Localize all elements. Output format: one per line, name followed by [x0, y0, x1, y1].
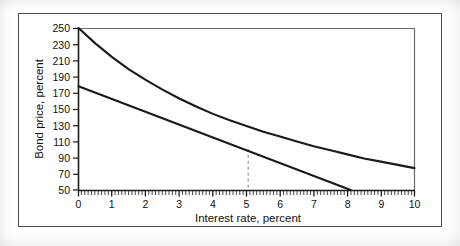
x-tick-labels: 0 1 2 3 4 5 6 7 8 9 10	[76, 198, 421, 210]
y-tick-label: 190	[52, 71, 70, 83]
x-tick-label: 10	[409, 198, 421, 210]
x-tick-label: 7	[311, 198, 317, 210]
x-tick-label: 4	[210, 198, 216, 210]
y-tick-label: 250	[52, 22, 70, 34]
y-tick-label: 50	[58, 184, 70, 196]
y-tick-label: 70	[58, 168, 70, 180]
y-tick-labels: 250 230 210 190 170 150 130 110 90 70 50	[52, 22, 70, 195]
x-tick-label: 0	[76, 198, 82, 210]
plot-area	[78, 28, 415, 190]
x-tick-label: 5	[244, 198, 250, 210]
y-tick-label: 230	[52, 39, 70, 51]
x-tick-label: 9	[378, 198, 384, 210]
x-axis	[78, 191, 415, 197]
x-tick-label: 3	[176, 198, 182, 210]
y-tick-label: 210	[52, 55, 70, 67]
x-tick-label: 2	[142, 198, 148, 210]
y-tick-label: 150	[52, 103, 70, 115]
y-tick-label: 110	[53, 136, 70, 148]
y-axis-title: Bond price, percent	[33, 58, 45, 159]
x-axis-title: Interest rate, percent	[195, 212, 302, 224]
x-tick-label: 8	[345, 198, 351, 210]
y-axis	[73, 28, 79, 190]
y-tick-label: 90	[58, 152, 70, 164]
y-tick-label: 170	[52, 87, 70, 99]
bond-price-figure: 250 230 210 190 170 150 130 110 90 70 50	[0, 0, 460, 246]
y-tick-label: 130	[52, 120, 70, 132]
x-tick-label: 1	[109, 198, 115, 210]
chart-plot: 250 230 210 190 170 150 130 110 90 70 50	[0, 0, 460, 246]
x-tick-label: 6	[277, 198, 283, 210]
